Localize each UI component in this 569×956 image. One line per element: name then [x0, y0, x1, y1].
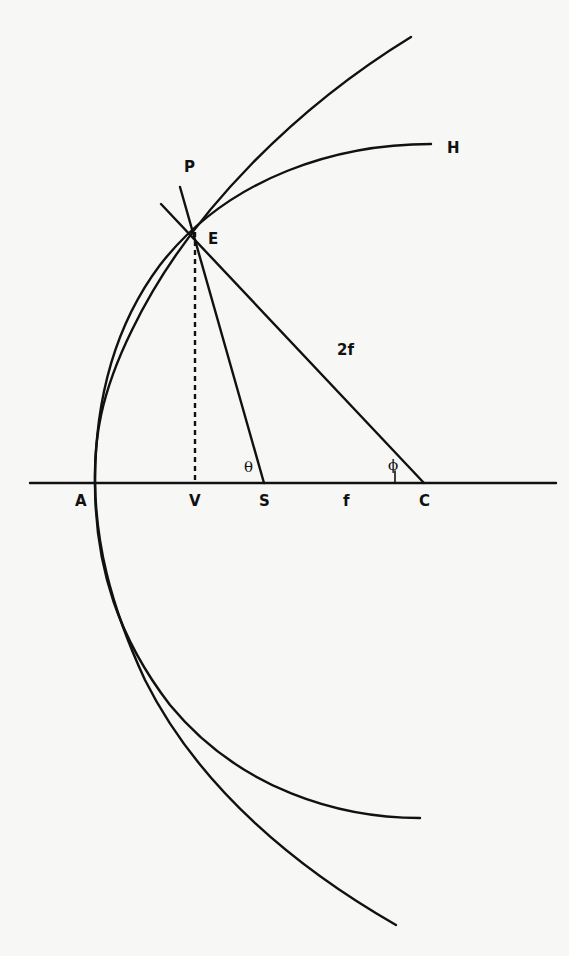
label-V: V [189, 494, 201, 509]
line-EC-2f [161, 204, 424, 483]
label-E: E [208, 232, 218, 247]
label-C: C [419, 494, 430, 509]
label-S: S [259, 494, 270, 509]
label-P: P [184, 160, 195, 175]
label-f: f [343, 494, 350, 509]
label-2f: 2f [337, 343, 354, 358]
line-PS [180, 187, 264, 483]
label-theta: θ [244, 460, 253, 475]
label-A: A [75, 494, 87, 509]
label-phi: ϕ [388, 458, 398, 473]
parabola-curve [95, 37, 411, 925]
parabola-circle-diagram [0, 0, 569, 956]
label-H: H [447, 141, 460, 156]
